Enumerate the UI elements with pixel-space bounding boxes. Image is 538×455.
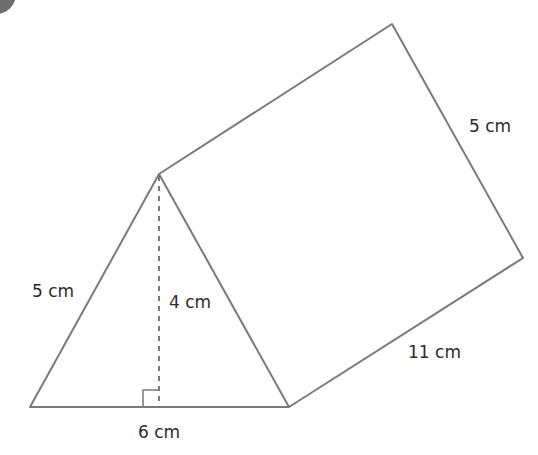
label-back-slant: 5 cm — [469, 116, 511, 136]
prism-top-edge — [159, 24, 523, 407]
label-length: 11 cm — [408, 342, 461, 362]
prism-diagram — [0, 0, 538, 455]
corner-badge-icon — [0, 0, 16, 14]
label-height: 4 cm — [169, 292, 211, 312]
label-slant-left: 5 cm — [32, 281, 74, 301]
label-base: 6 cm — [138, 422, 180, 442]
right-angle-marker-icon — [143, 390, 159, 406]
